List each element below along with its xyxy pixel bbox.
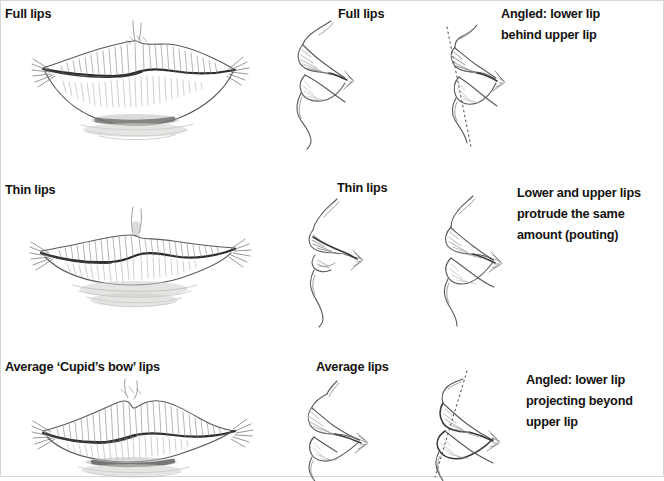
figure-average-lips-front: [31, 377, 261, 477]
figure-full-lips-profile: [289, 19, 367, 149]
figure-thin-lips-profile: [297, 197, 375, 327]
figure-full-lips-angled: [433, 19, 515, 151]
figure-average-lips-profile: [299, 379, 379, 479]
figure-average-lips-angled: [423, 369, 509, 481]
figure-thin-lips-angled: [429, 194, 511, 326]
label-thin-lips-front: Thin lips: [5, 179, 55, 200]
label-full-lips-angled: Angled: lower lip behind upper lip: [501, 3, 600, 45]
label-average-lips-angled: Angled: lower lip projecting beyond uppe…: [526, 369, 633, 432]
figure-thin-lips-front: [29, 199, 261, 317]
figure-full-lips-front: [29, 19, 259, 144]
label-thin-lips-profile: Thin lips: [337, 177, 387, 198]
label-average-lips-front: Average ‘Cupid’s bow’ lips: [5, 356, 160, 377]
label-average-lips-profile: Average lips: [316, 356, 389, 377]
label-thin-lips-angled: Lower and upper lips protrude the same a…: [517, 182, 641, 245]
